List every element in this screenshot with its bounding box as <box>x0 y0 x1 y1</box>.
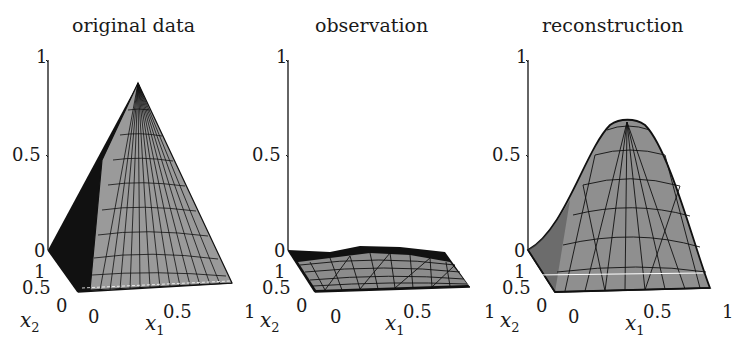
z-tick-0: 0 <box>274 242 285 260</box>
x-tick-0.5: 0.5 <box>163 303 192 321</box>
z-tick-1: 1 <box>516 48 527 66</box>
y-tick-0.5: 0.5 <box>502 279 531 297</box>
y-tick-0.5: 0.5 <box>22 279 51 297</box>
y-axis-label: x2 <box>260 310 280 338</box>
y-tick-0: 0 <box>536 297 547 315</box>
x-tick-0.5: 0.5 <box>403 303 432 321</box>
z-tick-0.5: 0.5 <box>252 146 281 164</box>
y-tick-0: 0 <box>296 297 307 315</box>
x-axis-label: x1 <box>385 313 405 341</box>
x-tick-1: 1 <box>722 303 733 321</box>
y-tick-0.5: 0.5 <box>262 279 291 297</box>
panel-observation: observation 1 0.5 0 1 0.5 0 x2 0 x1 0.5 … <box>250 0 495 349</box>
x-tick-0.5: 0.5 <box>643 303 672 321</box>
y-axis-label: x2 <box>500 310 520 338</box>
panel-reconstruction: reconstruction 1 0.5 0 1 0.5 0 x2 0 x1 0… <box>495 0 744 349</box>
x-tick-0: 0 <box>568 308 579 326</box>
z-tick-0: 0 <box>34 242 45 260</box>
y-tick-0: 0 <box>56 297 67 315</box>
z-tick-0.5: 0.5 <box>12 146 41 164</box>
x-axis-label: x1 <box>145 313 165 341</box>
surface-plot-reconstruction <box>495 0 744 349</box>
x-tick-1: 1 <box>484 303 495 321</box>
x-tick-0: 0 <box>330 308 341 326</box>
x-tick-0: 0 <box>88 308 99 326</box>
z-tick-1: 1 <box>36 48 47 66</box>
y-axis-label: x2 <box>20 310 40 338</box>
z-tick-0: 0 <box>514 242 525 260</box>
z-tick-1: 1 <box>276 48 287 66</box>
z-tick-0.5: 0.5 <box>492 146 521 164</box>
x-axis-label: x1 <box>625 313 645 341</box>
panel-original-data: original data <box>0 0 250 349</box>
